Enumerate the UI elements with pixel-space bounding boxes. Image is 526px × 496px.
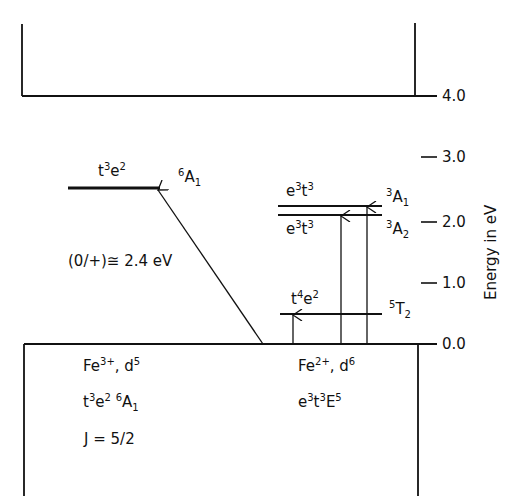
conduction-band-box <box>22 23 437 96</box>
fe3-ground-ion: Fe3+, d5 <box>83 359 140 374</box>
tick-label-0: 0.0 <box>442 337 466 352</box>
fe3-j-label: J = 5/2 <box>84 432 135 447</box>
fe2-ground-ion: Fe2+, d6 <box>298 359 355 374</box>
fe2-3a2-term: 3A2 <box>386 222 409 237</box>
transition-energy-label: (0/+)≅ 2.4 eV <box>68 254 172 269</box>
tick-label-1: 1.0 <box>442 276 466 291</box>
fe2-5t2-term: 5T2 <box>389 302 411 317</box>
fe2-ground-term: e3t3E5 <box>298 395 342 410</box>
tick-label-4: 4.0 <box>442 89 466 104</box>
fe3-level-term: 6A1 <box>178 170 201 185</box>
fe3-level-config: t3e2 <box>98 164 126 179</box>
tick-label-2: 2.0 <box>442 215 466 230</box>
fe2-3a1-term: 3A1 <box>386 190 409 205</box>
fe2-3a1-config: e3t3 <box>286 184 314 199</box>
axis-title: Energy in eV <box>482 205 500 300</box>
energy-diagram-lines <box>0 0 526 496</box>
fe3-ground-term: t3e2 6A1 <box>83 395 139 410</box>
fe2-3a2-config: e3t3 <box>286 222 314 237</box>
arrow-fe3-transition <box>158 190 263 344</box>
axis-ticks <box>421 157 437 283</box>
fe2-5t2-config: t4e2 <box>291 292 319 307</box>
tick-label-3: 3.0 <box>442 150 466 165</box>
